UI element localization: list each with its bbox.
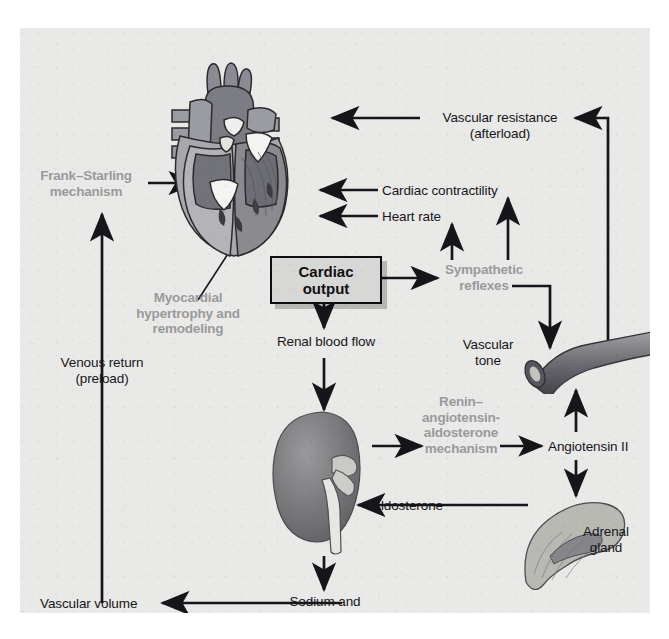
diagram-canvas: Cardiacoutput Frank–Starling mechanism M… bbox=[20, 28, 650, 613]
label-aldosterone: Aldosterone bbox=[372, 498, 443, 514]
label-sympathetic-reflexes: Sympathetic reflexes bbox=[428, 262, 540, 293]
label-cardiac-contractility: Cardiac contractility bbox=[382, 183, 498, 199]
label-adrenal-gland: Adrenal gland bbox=[566, 524, 646, 555]
label-sodium-water-retention: Sodium and water retention bbox=[258, 594, 392, 613]
label-renin-angiotensin-aldosterone: Renin– angiotensin- aldosterone mechanis… bbox=[406, 394, 516, 456]
cardiac-output-node: Cardiacoutput bbox=[270, 256, 382, 304]
label-heart-rate: Heart rate bbox=[382, 209, 441, 225]
label-angiotensin-ii: Angiotensin II bbox=[548, 439, 628, 455]
label-vascular-volume: Vascular volume bbox=[40, 596, 137, 612]
label-renal-blood-flow: Renal blood flow bbox=[256, 334, 396, 350]
kidney-illustration bbox=[266, 408, 382, 560]
label-venous-return: Venous return (preload) bbox=[36, 355, 168, 386]
heart-illustration bbox=[150, 58, 325, 263]
blood-vessel-illustration bbox=[516, 330, 650, 394]
label-vascular-resistance: Vascular resistance (afterload) bbox=[420, 110, 580, 141]
label-frank-starling: Frank–Starling mechanism bbox=[26, 168, 146, 199]
cardiac-output-label: Cardiacoutput bbox=[298, 263, 353, 297]
label-vascular-tone: Vascular tone bbox=[452, 337, 524, 368]
label-myocardial-hypertrophy: Myocardial hypertrophy and remodeling bbox=[118, 290, 258, 337]
